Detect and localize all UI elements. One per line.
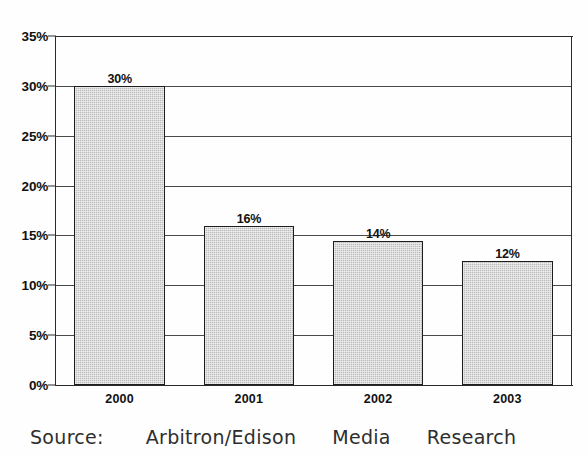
bar-value-label: 14%	[314, 227, 443, 241]
chart-caption: Source:Arbitron/EdisonMediaResearch	[0, 418, 588, 455]
x-axis-tick-labels: 2000 2001 2002 2003	[55, 392, 572, 414]
source-line: Source:Arbitron/EdisonMediaResearch	[30, 426, 516, 448]
source-organization: Arbitron/Edison	[146, 426, 296, 448]
x-axis-tick-label-2003: 2003	[493, 392, 522, 406]
x-axis-tick-label-3003: 2003	[443, 392, 572, 406]
x-axis-line	[55, 385, 573, 386]
x-axis-tick-label-2000: 2000	[55, 392, 184, 406]
x-axis-tick-label-2001: 2001	[184, 392, 313, 406]
y-axis-tick-label: 20%	[0, 178, 48, 193]
y-axis-tick-label: 35%	[0, 29, 48, 44]
x-axis-tick-label-2002: 2002	[314, 392, 443, 406]
y-axis-tick-label: 25%	[0, 128, 48, 143]
bars-layer: 30% 16% 14% 12%	[55, 36, 572, 385]
bar-2000[interactable]	[74, 86, 164, 385]
bar-chart-figure: 35% 30% 25% 20% 15% 10% 5% 0% 30%	[0, 0, 588, 455]
y-axis-tick-labels: 35% 30% 25% 20% 15% 10% 5% 0%	[0, 0, 48, 400]
bar-value-label: 30%	[55, 72, 184, 86]
bar-group-2001: 16%	[184, 36, 313, 385]
source-word-research: Research	[427, 426, 517, 448]
bar-2003[interactable]	[462, 261, 552, 385]
plot-wrapper: 35% 30% 25% 20% 15% 10% 5% 0% 30%	[0, 0, 588, 400]
bar-2002[interactable]	[333, 241, 423, 385]
source-word-media: Media	[332, 426, 391, 448]
y-axis-tick-label: 15%	[0, 228, 48, 243]
source-label: Source:	[30, 426, 104, 448]
bar-group-2003: 12%	[443, 36, 572, 385]
y-axis-tick-label: 0%	[0, 378, 48, 393]
y-axis-tick-label: 30%	[0, 78, 48, 93]
y-axis-tick-label: 10%	[0, 278, 48, 293]
bar-2001[interactable]	[204, 226, 294, 386]
y-axis-tick-label: 5%	[0, 328, 48, 343]
bar-value-label: 12%	[443, 247, 572, 261]
bar-group-2000: 30%	[55, 36, 184, 385]
bar-group-2002: 14%	[314, 36, 443, 385]
bar-value-label: 16%	[184, 212, 313, 226]
